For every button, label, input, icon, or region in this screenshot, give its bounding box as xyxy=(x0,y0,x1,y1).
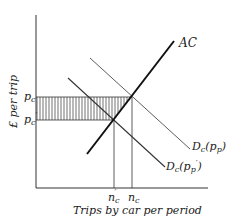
demand-pp-label: Dc(pp) xyxy=(191,140,226,154)
hatched-area xyxy=(36,97,132,120)
ac-label: AC xyxy=(178,36,197,50)
nc-label: nc xyxy=(128,191,140,205)
demand-curve-pp-prime xyxy=(68,78,165,167)
pc-prime-label: pc′ xyxy=(24,110,38,127)
y-axis-title: £ per trip xyxy=(7,75,20,129)
demand-pp-prime-label: Dc(pp′) xyxy=(165,158,202,174)
pc-label: pc xyxy=(24,90,36,104)
nc-prime-label: nc′ xyxy=(108,187,120,205)
diagram-canvas: AC Dc(pp) Dc(pp′) pc pc′ nc′ nc Trips by… xyxy=(0,0,235,220)
x-axis-title: Trips by car per period xyxy=(73,204,202,217)
